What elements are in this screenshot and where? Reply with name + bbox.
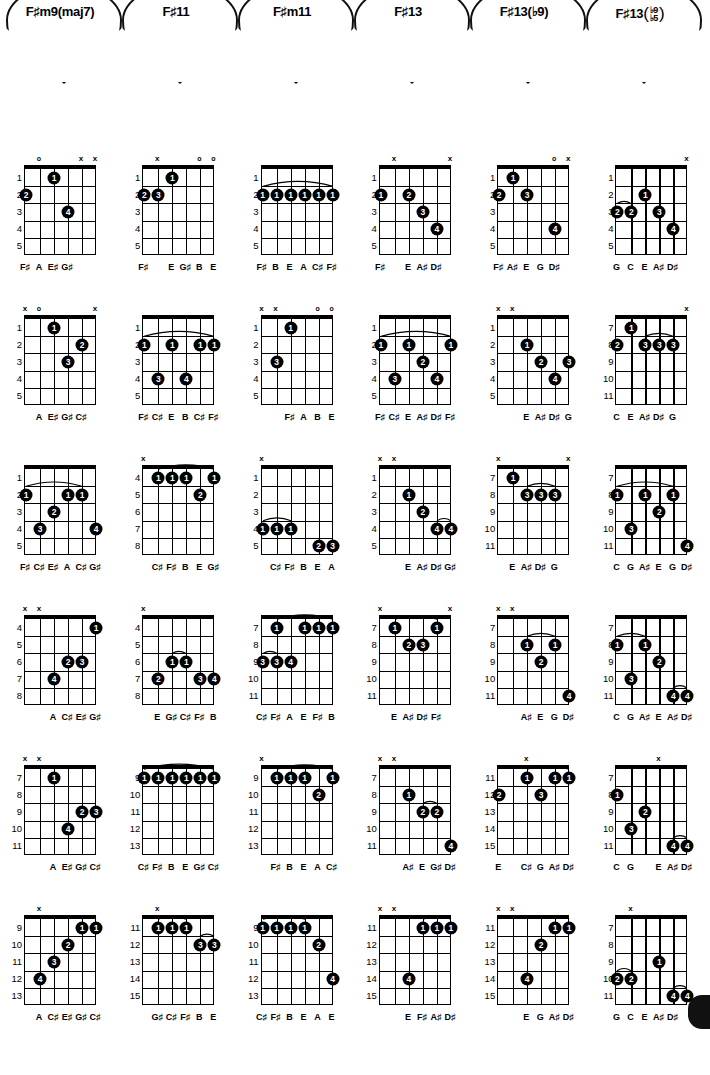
chord-diagram-r1c1[interactable]: oxx12345124F♯AE♯G♯: [0, 140, 118, 290]
chord-diagram-r5c4[interactable]: xx78910111224A♯EG♯D♯: [355, 740, 473, 890]
note-name: C♯: [48, 1011, 59, 1023]
chord-diagram-r1c6[interactable]: x1234512234GCEA♯D♯: [591, 140, 709, 290]
chord-diagram-r3c1[interactable]: 12345111234F♯C♯E♯AC♯G♯: [0, 440, 118, 590]
fret-line: [25, 336, 95, 337]
note-name: C♯: [256, 1011, 267, 1023]
note-name-row: C♯F♯AEF♯B: [261, 711, 333, 725]
fret-number-column: 12345: [478, 169, 495, 255]
open-string-icon: o: [315, 304, 319, 313]
finger-dot: 4: [326, 973, 339, 986]
note-name: A: [36, 261, 43, 273]
chord-diagram-r2c3[interactable]: xxoo1234513F♯ABE: [237, 290, 355, 440]
fret-number: 11: [604, 391, 614, 401]
chord-diagram-r3c5[interactable]: xx78910111333EA♯D♯G: [473, 440, 591, 590]
finger-dot: 4: [549, 223, 562, 236]
fret-line: [380, 971, 450, 972]
chord-diagram-r5c3[interactable]: x91011121311112F♯BEAC♯: [237, 740, 355, 890]
note-name-row: CGA♯EA♯D♯: [615, 711, 687, 725]
fret-line: [143, 221, 213, 222]
fret-number-column: 1112131415: [123, 919, 140, 1005]
chord-diagram-r2c2[interactable]: 12345111134F♯C♯EBC♯F♯: [118, 290, 236, 440]
chord-diagram-r6c3[interactable]: 910111213111124C♯F♯BEAE: [237, 890, 355, 1040]
chord-diagram-r1c4[interactable]: xx123451234F♯EA♯D♯: [355, 140, 473, 290]
chord-diagram-r6c1[interactable]: x91011121311234AC♯E♯G♯C♯: [0, 890, 118, 1040]
chord-diagram-r6c5[interactable]: xx11121314151124EGA♯D♯: [473, 890, 591, 1040]
chord-diagram-r3c3[interactable]: x1234511123C♯F♯BEA: [237, 440, 355, 590]
chord-diagram-r1c2[interactable]: xoo12345123F♯EG♯BE: [118, 140, 236, 290]
fret-number: 14: [485, 824, 496, 834]
chord-diagram-r4c1[interactable]: xx456781234AC♯E♯G♯: [0, 590, 118, 740]
string-line: [527, 919, 528, 1004]
fret-line: [143, 971, 213, 972]
chord-diagram-r6c4[interactable]: xx11121314151114EF♯A♯D♯: [355, 890, 473, 1040]
note-name: E♯: [62, 861, 73, 873]
chord-diagram-r6c2[interactable]: x111213141511133G♯C♯F♯BE: [118, 890, 236, 1040]
string-line: [631, 469, 632, 554]
fret-line: [25, 238, 95, 239]
note-name: A♯: [535, 411, 546, 423]
open-string-icon: o: [37, 154, 41, 163]
finger-dot: 2: [493, 188, 506, 201]
string-line: [645, 169, 646, 254]
chord-diagram-r4c6[interactable]: 7891011112344CGA♯EA♯D♯: [591, 590, 709, 740]
fretboard-wrapper: 1234511123: [261, 465, 333, 555]
fretboard-wrapper: 123451234: [379, 165, 451, 255]
chord-diagram-r2c5[interactable]: xx123451234EA♯D♯G: [473, 290, 591, 440]
open-string-icon: o: [37, 304, 41, 313]
string-markers: xx: [379, 454, 451, 465]
fret-line: [25, 671, 95, 672]
finger-dot: 2: [611, 973, 624, 986]
finger-dot: 2: [493, 788, 506, 801]
chord-diagram-r4c3[interactable]: 78910111111334C♯F♯AEF♯B: [237, 590, 355, 740]
chord-diagram-r2c1[interactable]: xox12345123AE♯G♯C♯: [0, 290, 118, 440]
finger-dot: 1: [611, 638, 624, 651]
chord-diagram-r1c3[interactable]: 12345111111F♯BEAC♯F♯: [237, 140, 355, 290]
chord-diagram-r1c5[interactable]: ox123451234F♯A♯EGD♯: [473, 140, 591, 290]
chord-diagram-r3c2[interactable]: x4567811112C♯F♯BEG♯: [118, 440, 236, 590]
chord-diagram-r3c4[interactable]: xx123451244EA♯D♯G♯: [355, 440, 473, 590]
open-string-icon: o: [552, 154, 556, 163]
fret-line: [616, 671, 686, 672]
fret-number-column: 7891011: [478, 469, 495, 555]
chord-diagram-r4c5[interactable]: xx78910111124A♯EGD♯: [473, 590, 591, 740]
finger-dot: 1: [138, 338, 151, 351]
string-line: [40, 919, 41, 1004]
chord-diagram-r2c6[interactable]: x789101112333CEA♯D♯G: [591, 290, 709, 440]
fret-line: [262, 203, 332, 204]
fret-line: [25, 186, 95, 187]
chord-diagram-r5c1[interactable]: xx78910111234AE♯G♯C♯: [0, 740, 118, 890]
note-name: D♯: [653, 411, 664, 423]
chord-diagram-r5c2[interactable]: 910111213111111C♯F♯BEG♯C♯: [118, 740, 236, 890]
chord-diagram-r4c2[interactable]: x4567811234EG♯C♯F♯B: [118, 590, 236, 740]
chord-diagram-r3c6[interactable]: 7891011111234CGA♯EGD♯: [591, 440, 709, 590]
note-name: E: [655, 711, 661, 723]
chord-type-label: F♯13(♭9): [470, 4, 578, 19]
chord-diagram-r5c5[interactable]: x111213141511123EC♯GA♯D♯: [473, 740, 591, 890]
chord-diagram: ox123451234F♯A♯EGD♯: [497, 154, 569, 275]
fret-number: 7: [608, 773, 613, 783]
fret-number: 2: [608, 190, 613, 200]
fret-number: 15: [366, 991, 377, 1001]
finger-dot: 1: [256, 921, 269, 934]
finger-dot: 1: [90, 621, 103, 634]
string-line: [409, 469, 410, 554]
chord-diagram-grid: oxx12345124F♯AE♯G♯xoo12345123F♯EG♯BE1234…: [0, 140, 710, 1040]
fret-line: [616, 503, 686, 504]
note-name: G: [627, 711, 634, 723]
note-name: E♯: [48, 561, 59, 573]
finger-dot: 2: [312, 540, 325, 553]
chord-diagram: x4567811234EG♯C♯F♯B: [142, 604, 214, 725]
fret-number: 7: [253, 623, 258, 633]
fret-number: 8: [135, 691, 140, 701]
note-name: C♯: [194, 411, 205, 423]
chord-diagram-r2c4[interactable]: 12345111234F♯C♯EA♯D♯F♯: [355, 290, 473, 440]
fretboard: 78910111234: [24, 769, 96, 855]
string-markers: [142, 754, 214, 765]
string-line: [319, 169, 320, 254]
finger-dot: 1: [48, 321, 61, 334]
chord-diagram-r5c6[interactable]: x789101112344CGEA♯D♯: [591, 740, 709, 890]
fret-line: [262, 786, 332, 787]
chord-diagram-r4c4[interactable]: xx78910111123EA♯D♯F♯: [355, 590, 473, 740]
muted-string-icon: x: [79, 154, 83, 163]
string-line: [158, 319, 159, 404]
